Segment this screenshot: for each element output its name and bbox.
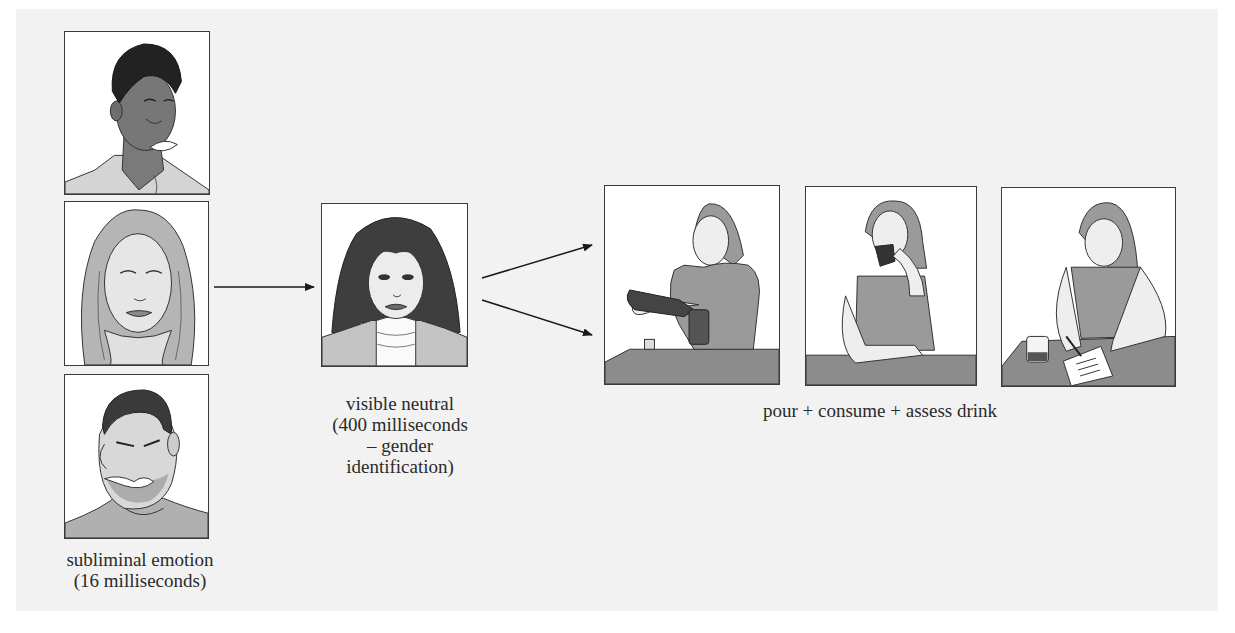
visible-neutral-caption: visible neutral (400 milliseconds – gend… <box>300 393 500 477</box>
subliminal-caption: subliminal emotion (16 milliseconds) <box>30 549 250 591</box>
happy-man-illustration <box>65 32 209 194</box>
neutral-face-image <box>64 201 209 366</box>
pour-drink-image <box>604 185 780 385</box>
assess-drink-image <box>1001 187 1176 387</box>
drinking-woman-illustration <box>806 187 976 385</box>
visible-neutral-caption-line3: – gender <box>300 435 500 456</box>
neutral-woman-illustration <box>65 202 208 365</box>
pouring-woman-illustration <box>605 186 779 384</box>
drink-task-caption: pour + consume + assess drink <box>700 400 1060 421</box>
consume-drink-image <box>805 186 977 386</box>
happy-face-image <box>64 31 210 195</box>
angry-face-image <box>64 374 209 539</box>
visible-neutral-caption-line4: identification) <box>300 456 500 477</box>
visible-neutral-caption-line1: visible neutral <box>300 393 500 414</box>
subliminal-caption-line2: (16 milliseconds) <box>30 570 250 591</box>
angry-man-illustration <box>65 375 208 538</box>
visible-neutral-caption-line2: (400 milliseconds <box>300 414 500 435</box>
dark-haired-woman-illustration <box>322 204 467 366</box>
neutral-target-face-image <box>321 203 468 367</box>
subliminal-caption-line1: subliminal emotion <box>30 549 250 570</box>
assessing-woman-illustration <box>1002 188 1175 386</box>
